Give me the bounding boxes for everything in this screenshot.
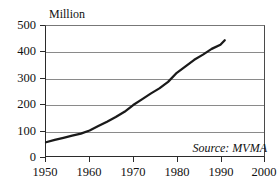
x-tick-mark-1980 — [177, 157, 178, 162]
y-axis-unit-label: Million — [49, 7, 85, 21]
source-annotation: Source: MVMA — [192, 142, 267, 155]
x-tick-label-1950: 1950 — [23, 166, 67, 179]
y-tick-label-0: 0 — [2, 151, 36, 164]
data-line-automobile-fleet — [46, 26, 264, 156]
x-tick-mark-1970 — [133, 157, 134, 162]
y-tick-label-400: 400 — [2, 45, 36, 58]
x-tick-label-1960: 1960 — [67, 166, 111, 179]
plot-area — [45, 25, 265, 157]
y-tick-label-200: 200 — [2, 98, 36, 111]
line-chart-figure: Million 500 400 300 200 100 0 1950 1960 … — [0, 0, 279, 191]
x-tick-mark-1960 — [89, 157, 90, 162]
x-tick-label-1990: 1990 — [199, 166, 243, 179]
x-tick-mark-1950 — [45, 157, 46, 162]
x-tick-mark-2000 — [264, 157, 265, 162]
x-tick-label-1970: 1970 — [111, 166, 155, 179]
y-tick-label-500: 500 — [2, 19, 36, 32]
y-tick-label-300: 300 — [2, 72, 36, 85]
x-tick-mark-1990 — [221, 157, 222, 162]
x-tick-label-2000: 2000 — [242, 166, 279, 179]
x-tick-label-1980: 1980 — [155, 166, 199, 179]
y-tick-label-100: 100 — [2, 125, 36, 138]
